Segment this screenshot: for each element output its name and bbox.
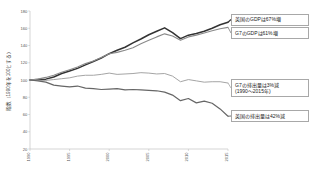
- x-tick-label: 2005: [145, 152, 150, 162]
- x-axis: 199019952000200520102015: [26, 149, 229, 162]
- y-tick-label: 20: [23, 147, 28, 152]
- x-tick-label: 1990: [26, 152, 31, 162]
- x-tick-label: 2015: [224, 152, 229, 162]
- callout-uk-gdp-line-1: 英国のGDPは67%増: [235, 16, 305, 22]
- y-tick-label: 160: [21, 26, 29, 31]
- y-tick-label: 80: [23, 95, 28, 100]
- y-tick-label: 100: [21, 78, 29, 83]
- series-line-3: [30, 80, 228, 116]
- callout-g7-emissions: G7の排出量は3%減 (1990〜2015年): [231, 79, 309, 97]
- y-tick-label: 140: [21, 43, 29, 48]
- emissions-gdp-line-chart: 18016014012010080604020 1990199520002005…: [0, 0, 335, 175]
- x-tick-label: 1995: [66, 152, 71, 162]
- callout-uk-emissions-line-1: 英国の排出量は42%減: [235, 113, 305, 119]
- series-line-0: [30, 22, 228, 80]
- y-tick-label: 180: [21, 9, 29, 14]
- x-tick-label: 2010: [184, 152, 189, 162]
- series-line-1: [30, 27, 228, 80]
- series-lines: [30, 22, 228, 116]
- y-tick-label: 40: [23, 129, 28, 134]
- callout-uk-emissions: 英国の排出量は42%減: [231, 110, 309, 122]
- y-axis-title: 指数（1990年を100とする）: [5, 49, 12, 112]
- callout-g7-emissions-line-2: (1990〜2015年): [235, 88, 305, 94]
- y-axis: 18016014012010080604020: [21, 9, 30, 152]
- x-tick-label: 2000: [105, 152, 110, 162]
- callout-g7-gdp: G7のGDPは61%増: [231, 27, 309, 39]
- callout-g7-gdp-line-1: G7のGDPは61%増: [235, 30, 305, 36]
- callout-uk-gdp: 英国のGDPは67%増: [231, 14, 309, 26]
- y-tick-label: 60: [23, 112, 28, 117]
- y-tick-label: 120: [21, 60, 29, 65]
